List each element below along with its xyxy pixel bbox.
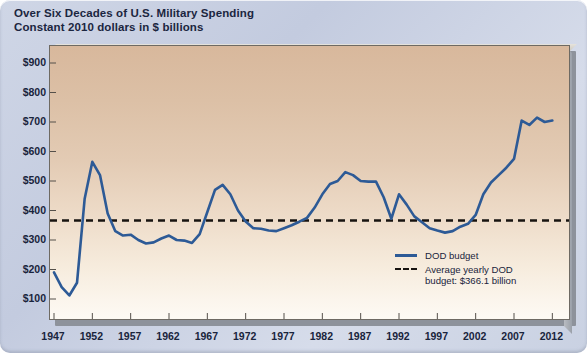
y-axis-tick-label: $800: [23, 86, 46, 98]
legend-label-dod-budget: DOD budget: [425, 250, 545, 262]
x-axis-tick-label: 1967: [195, 330, 218, 342]
x-axis-labels: 1947195219571962196719721977198219871992…: [49, 330, 570, 346]
chart-legend: DOD budget Average yearly DOD budget: $3…: [395, 250, 545, 289]
x-axis-tick-label: 1972: [233, 330, 256, 342]
x-axis-tick-label: 1952: [80, 330, 103, 342]
x-axis-tick-label: 1992: [386, 330, 409, 342]
y-axis-tick-label: $400: [23, 204, 46, 216]
x-axis-tick-label: 1957: [118, 330, 141, 342]
y-axis-tick-label: $100: [23, 292, 46, 304]
x-axis-tick-label: 1947: [41, 330, 64, 342]
y-axis-tick-label: $200: [23, 263, 46, 275]
x-axis-tick-label: 1977: [271, 330, 294, 342]
y-axis-labels: $900$800$700$600$500$400$300$200$100: [2, 45, 46, 320]
y-axis-tick-label: $300: [23, 233, 46, 245]
page-subtitle: Constant 2010 dollars in $ billions: [14, 20, 434, 34]
legend-label-average-line1: Average yearly DOD: [425, 264, 545, 276]
y-axis-tick-label: $600: [23, 145, 46, 157]
dashed-line-swatch-icon: [395, 268, 417, 270]
legend-item-average: Average yearly DOD budget: $366.1 billio…: [395, 264, 545, 287]
y-axis-tick-label: $500: [23, 174, 46, 186]
y-axis-ticks: [50, 63, 56, 299]
legend-item-dod-budget: DOD budget: [395, 250, 545, 262]
legend-label-average-line2: budget: $366.1 billion: [425, 275, 545, 287]
x-axis-tick-label: 1982: [310, 330, 333, 342]
x-axis-tick-label: 1997: [425, 330, 448, 342]
x-axis-tick-label: 2002: [463, 330, 486, 342]
x-axis-tick-label: 1987: [348, 330, 371, 342]
y-axis-tick-label: $900: [23, 56, 46, 68]
y-axis-tick-label: $700: [23, 115, 46, 127]
chart-title-block: Over Six Decades of U.S. Military Spendi…: [14, 6, 434, 34]
x-axis-tick-label: 2007: [501, 330, 524, 342]
x-axis-ticks: [54, 313, 552, 320]
solid-line-swatch-icon: [395, 254, 417, 257]
chart-page: Over Six Decades of U.S. Military Spendi…: [0, 0, 587, 353]
page-title: Over Six Decades of U.S. Military Spendi…: [14, 6, 434, 20]
x-axis-tick-label: 2012: [540, 330, 563, 342]
x-axis-tick-label: 1962: [156, 330, 179, 342]
